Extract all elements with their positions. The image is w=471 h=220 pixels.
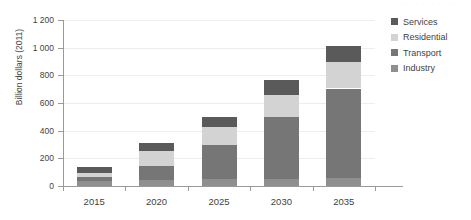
x-tick-mark-0 <box>63 186 64 191</box>
y-tick-mark-800 <box>58 75 63 76</box>
y-tick-label-1000: 1 000 <box>8 43 54 53</box>
bar-segment-2025-residential[interactable] <box>202 127 237 146</box>
x-tick-mark-4 <box>313 186 314 191</box>
bar-segment-2030-residential[interactable] <box>264 95 299 117</box>
x-tick-label-2015: 2015 <box>59 196 129 207</box>
legend-swatch-industry-icon <box>391 65 398 72</box>
chart-legend: ServicesResidentialTransportIndustry <box>391 14 471 76</box>
y-tick-label-800: 800 <box>8 70 54 80</box>
x-tick-mark-1 <box>125 186 126 191</box>
x-axis-line <box>63 186 403 187</box>
legend-item-transport[interactable]: Transport <box>391 45 471 61</box>
y-axis-line <box>63 20 64 187</box>
legend-swatch-residential-icon <box>391 34 398 41</box>
legend-label: Transport <box>403 48 441 58</box>
x-tick-mark-2 <box>188 186 189 191</box>
bar-segment-2030-industry[interactable] <box>264 179 299 186</box>
bar-segment-2025-transport[interactable] <box>202 145 237 179</box>
legend-swatch-transport-icon <box>391 49 398 56</box>
y-tick-mark-200 <box>58 158 63 159</box>
x-tick-mark-5 <box>375 186 376 191</box>
legend-swatch-services-icon <box>391 18 398 25</box>
stacked-bar-chart: · · · · · · · · · · · · · · Billion doll… <box>0 0 471 220</box>
y-tick-label-600: 600 <box>8 98 54 108</box>
bar-2035[interactable] <box>326 20 361 186</box>
x-tick-label-2020: 2020 <box>122 196 192 207</box>
y-tick-label-200: 200 <box>8 153 54 163</box>
bar-segment-2035-industry[interactable] <box>326 178 361 186</box>
bar-2030[interactable] <box>264 20 299 186</box>
header-remnant-text: · · · · · · · · · · · · · · <box>258 0 468 4</box>
legend-label: Residential <box>403 32 448 42</box>
x-tick-label-2025: 2025 <box>184 196 254 207</box>
y-tick-mark-600 <box>58 103 63 104</box>
bar-segment-2035-services[interactable] <box>326 46 361 63</box>
bar-segment-2035-residential[interactable] <box>326 62 361 88</box>
legend-label: Industry <box>403 63 435 73</box>
y-tick-label-1200: 1 200 <box>8 15 54 25</box>
bar-2025[interactable] <box>202 20 237 186</box>
legend-item-residential[interactable]: Residential <box>391 30 471 46</box>
bar-segment-2020-services[interactable] <box>139 143 174 151</box>
y-tick-label-400: 400 <box>8 126 54 136</box>
bar-segment-2025-services[interactable] <box>202 117 237 127</box>
bar-segment-2015-residential[interactable] <box>77 173 112 177</box>
x-tick-mark-3 <box>250 186 251 191</box>
bar-segment-2020-transport[interactable] <box>139 166 174 181</box>
y-tick-mark-1000 <box>58 48 63 49</box>
bar-segment-2020-residential[interactable] <box>139 151 174 166</box>
legend-label: Services <box>403 17 438 27</box>
x-tick-label-2035: 2035 <box>309 196 379 207</box>
bar-segment-2025-industry[interactable] <box>202 179 237 186</box>
bar-segment-2015-services[interactable] <box>77 167 112 173</box>
legend-item-industry[interactable]: Industry <box>391 61 471 77</box>
plot-area <box>63 20 375 186</box>
y-tick-mark-1200 <box>58 20 63 21</box>
bar-segment-2015-transport[interactable] <box>77 177 112 181</box>
legend-item-services[interactable]: Services <box>391 14 471 30</box>
y-tick-label-0: 0 <box>8 181 54 191</box>
bar-segment-2035-transport[interactable] <box>326 89 361 179</box>
y-tick-mark-400 <box>58 131 63 132</box>
bar-2020[interactable] <box>139 20 174 186</box>
bar-2015[interactable] <box>77 20 112 186</box>
x-tick-label-2030: 2030 <box>246 196 316 207</box>
bar-segment-2030-transport[interactable] <box>264 117 299 179</box>
bar-segment-2030-services[interactable] <box>264 80 299 95</box>
